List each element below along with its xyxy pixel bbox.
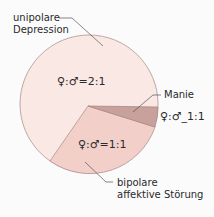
- ratio-bipolar: ♀:♂=1:1: [78, 138, 127, 151]
- label-bipolar-line1: bipolare: [117, 177, 158, 188]
- label-unipolar-line2: Depression: [13, 24, 69, 35]
- label-manie: Manie: [164, 89, 194, 100]
- ratio-unipolar: ♀:♂=2:1: [57, 75, 106, 88]
- label-bipolar-line2: affektive Störung: [117, 189, 203, 200]
- ratio-manie: ♀:♂_1:1: [160, 110, 205, 123]
- pie-chart: unipolare Depression ♀:♂=2:1 Manie ♀:♂_1…: [0, 0, 214, 217]
- label-unipolar-line1: unipolare: [13, 12, 60, 23]
